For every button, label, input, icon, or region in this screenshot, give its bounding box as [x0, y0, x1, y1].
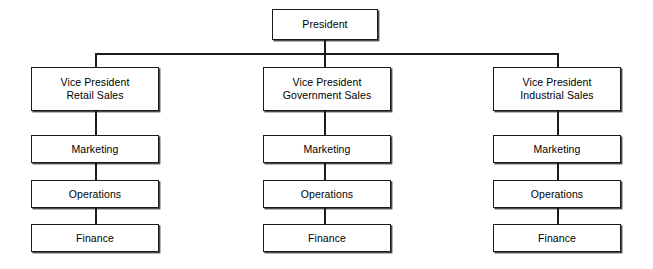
node-vice-president-industrial-sales[interactable]: Vice President Industrial Sales: [493, 67, 621, 111]
connector-government-marketing-to-operations: [324, 163, 326, 180]
node-industrial-operations[interactable]: Operations: [493, 180, 621, 208]
node-government-marketing[interactable]: Marketing: [263, 135, 391, 163]
node-government-operations[interactable]: Operations: [263, 180, 391, 208]
connector-president-stem: [324, 40, 326, 54]
node-president[interactable]: President: [272, 9, 378, 40]
node-vice-president-retail-sales[interactable]: Vice President Retail Sales: [31, 67, 159, 111]
node-retail-marketing[interactable]: Marketing: [31, 135, 159, 163]
connector-drop-industrial: [557, 53, 559, 68]
node-retail-operations[interactable]: Operations: [31, 180, 159, 208]
connector-horizontal-bus: [95, 53, 559, 55]
connector-industrial-vp-to-marketing: [557, 111, 559, 135]
node-industrial-marketing-label: Marketing: [529, 143, 584, 156]
node-vice-president-government-sales-label: Vice President Government Sales: [279, 76, 376, 102]
connector-retail-operations-to-finance: [95, 208, 97, 224]
node-retail-finance-label: Finance: [72, 232, 118, 245]
node-government-marketing-label: Marketing: [299, 143, 354, 156]
node-vice-president-retail-sales-label: Vice President Retail Sales: [57, 76, 134, 102]
node-retail-operations-label: Operations: [65, 188, 125, 201]
connector-retail-vp-to-marketing: [95, 111, 97, 135]
node-industrial-marketing[interactable]: Marketing: [493, 135, 621, 163]
node-government-finance-label: Finance: [304, 232, 350, 245]
node-industrial-operations-label: Operations: [527, 188, 587, 201]
connector-drop-government: [324, 53, 326, 68]
node-retail-marketing-label: Marketing: [67, 143, 122, 156]
connector-drop-retail: [95, 53, 97, 68]
org-chart-canvas: President Vice President Retail Sales Ma…: [0, 0, 653, 269]
node-government-operations-label: Operations: [297, 188, 357, 201]
node-industrial-finance-label: Finance: [534, 232, 580, 245]
node-vice-president-government-sales[interactable]: Vice President Government Sales: [263, 67, 391, 111]
node-vice-president-industrial-sales-label: Vice President Industrial Sales: [516, 76, 597, 102]
connector-industrial-marketing-to-operations: [557, 163, 559, 180]
node-industrial-finance[interactable]: Finance: [493, 224, 621, 252]
connector-government-vp-to-marketing: [324, 111, 326, 135]
connector-industrial-operations-to-finance: [557, 208, 559, 224]
node-president-label: President: [298, 18, 351, 31]
node-retail-finance[interactable]: Finance: [31, 224, 159, 252]
connector-retail-marketing-to-operations: [95, 163, 97, 180]
node-government-finance[interactable]: Finance: [263, 224, 391, 252]
connector-government-operations-to-finance: [324, 208, 326, 224]
